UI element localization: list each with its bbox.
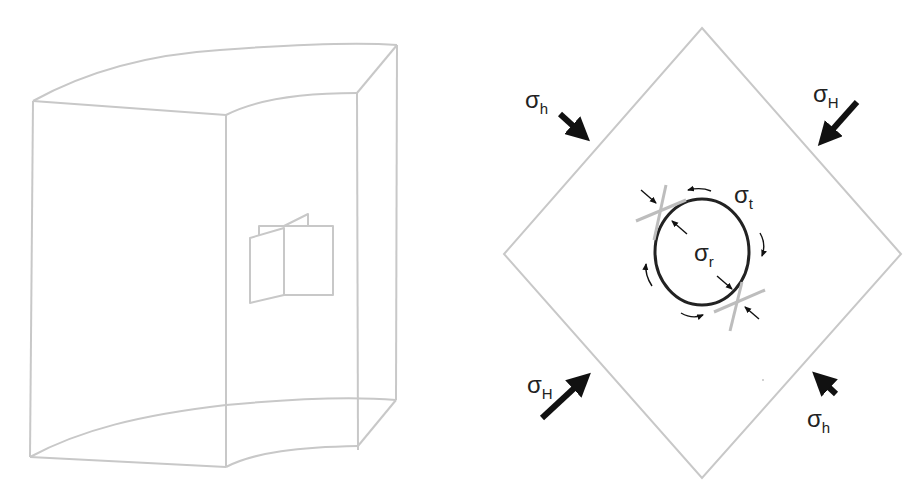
sigma-h-top-arrow — [560, 114, 582, 134]
curved-block-wireframe — [30, 44, 397, 467]
label-sigma-h-top: σh — [525, 86, 548, 117]
diagram-canvas: σh σH σH σh σt σr — [0, 0, 923, 501]
label-sigma-r: σr — [694, 239, 714, 270]
label-sigma-h-bottom: σh — [807, 405, 830, 436]
label-sigma-H-bottom: σH — [527, 371, 553, 402]
fracture-plane-icon — [250, 214, 333, 303]
speck — [762, 379, 764, 381]
label-sigma-H-top: σH — [813, 80, 839, 111]
sigma-h-bottom-arrow — [820, 379, 836, 394]
label-sigma-t: σt — [734, 181, 754, 212]
